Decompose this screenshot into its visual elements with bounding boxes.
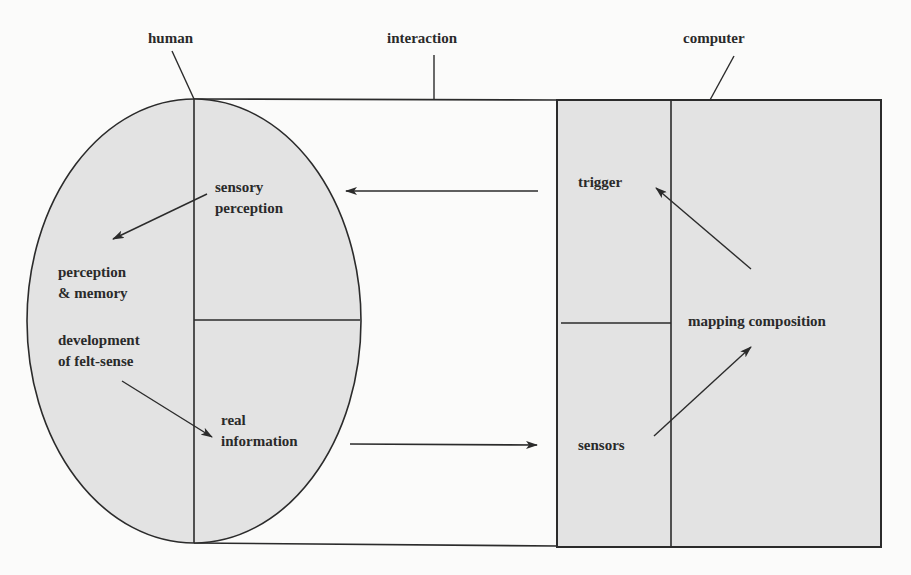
diagram-shapes: [0, 0, 911, 575]
real-information-label: real information: [221, 410, 298, 452]
interaction-label: interaction: [387, 28, 457, 49]
development-line2: of felt-sense: [58, 351, 140, 372]
perception-memory-line2: & memory: [58, 283, 128, 304]
computer-label: computer: [683, 28, 745, 49]
development-line1: development: [58, 330, 140, 351]
human-label: human: [148, 28, 193, 49]
human-leader-line: [172, 51, 194, 99]
mapping-composition-label: mapping composition: [688, 311, 826, 332]
sensory-perception-label: sensory perception: [215, 177, 283, 219]
human-computer-interaction-diagram: human interaction computer sensory perce…: [0, 0, 911, 575]
bottom-connector-line: [194, 543, 557, 546]
computer-leader-line: [710, 56, 734, 100]
real-information-line2: information: [221, 431, 298, 452]
trigger-label: trigger: [578, 172, 622, 193]
sensory-perception-line1: sensory: [215, 177, 283, 198]
sensory-perception-line2: perception: [215, 198, 283, 219]
perception-memory-label: perception & memory: [58, 262, 128, 304]
perception-memory-line1: perception: [58, 262, 128, 283]
sensors-label: sensors: [578, 435, 625, 456]
development-felt-sense-label: development of felt-sense: [58, 330, 140, 372]
top-connector-line: [194, 99, 557, 100]
real-information-line1: real: [221, 410, 298, 431]
arrow-real-to-sensors: [350, 444, 537, 445]
